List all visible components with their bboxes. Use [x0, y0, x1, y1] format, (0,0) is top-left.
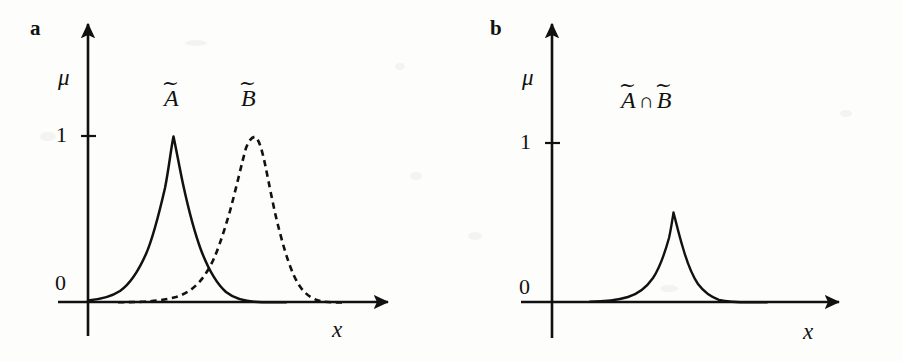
figure-container: a μ 1 0 x ∼ A ∼ B — [0, 0, 902, 361]
intersection-operator-icon: ∩ — [636, 89, 657, 113]
x-axis-label-a: x — [332, 318, 342, 341]
y-tick-label-1-a: 1 — [56, 124, 67, 146]
y-axis-label-b: μ — [522, 66, 534, 89]
tilde-accent-icon: ∼ — [162, 73, 179, 94]
tilde-accent-icon: ∼ — [619, 75, 636, 96]
y-tick-label-1-b: 1 — [520, 131, 531, 153]
panel-a: a μ 1 0 x ∼ A ∼ B — [0, 0, 451, 361]
curve-label-b-tilde: ∼ B — [241, 86, 256, 110]
tilde-accent-icon: ∼ — [239, 73, 256, 94]
panel-letter-b: b — [490, 18, 502, 39]
x-axis-label-b: x — [803, 320, 813, 343]
panel-a-plot — [0, 0, 451, 361]
curve-a-intersect-b — [590, 213, 767, 303]
y-tick-label-0-b: 0 — [519, 276, 530, 298]
panel-letter-a: a — [30, 18, 41, 39]
y-axis-label-a: μ — [58, 66, 70, 89]
curve-a-tilde — [88, 137, 286, 303]
panel-b-plot — [451, 0, 902, 361]
panel-b: b μ 1 0 x ∼ A ∩ ∼ B — [451, 0, 902, 361]
tilde-accent-icon: ∼ — [655, 75, 672, 96]
curve-label-a-intersect-b: ∼ A ∩ ∼ B — [621, 88, 672, 112]
curve-label-a-tilde: ∼ A — [164, 86, 179, 110]
y-tick-label-0-a: 0 — [55, 272, 66, 294]
curve-b-tilde — [118, 137, 345, 303]
